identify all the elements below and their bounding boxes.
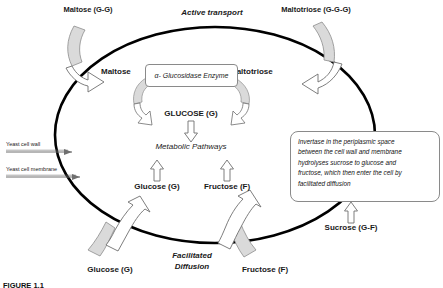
maltose-uptake-arrow (66, 26, 104, 92)
label-glucose-extracellular: Glucose (G) (87, 266, 132, 274)
invertase-info-box: Invertase in the periplasmic space betwe… (290, 131, 440, 202)
cell-membrane-pointer-arrow (6, 175, 80, 177)
glucose-facilitated-diffusion-arrow (88, 196, 150, 256)
label-glucose-intracellular: Glucose (G) (134, 183, 179, 191)
label-facilitated-diffusion-line1: Facilitated (172, 252, 212, 260)
sucrose-up-arrow (345, 202, 358, 223)
figure-caption: FIGURE 1.1 (3, 281, 44, 288)
label-yeast-cell-membrane: Yeast cell membrane (6, 167, 57, 173)
label-active-transport: Active transport (181, 9, 242, 17)
label-alpha-glucosidase-enzyme: α- Glucosidase Enzyme (154, 72, 228, 79)
label-fructose-extracellular: Fructose (F) (242, 266, 288, 274)
alpha-glucosidase-enzyme-box: α- Glucosidase Enzyme (145, 64, 238, 87)
label-maltose-intracellular: Maltose (101, 68, 131, 76)
invertase-info-line-2: between the cell wall and membrane (298, 147, 433, 157)
figure-canvas: Maltose (G-G) Active transport Maltotrio… (0, 0, 443, 288)
label-yeast-cell-wall: Yeast cell wall (6, 142, 40, 148)
label-maltotriose-extracellular: Maltotriose (G-G-G) (281, 6, 351, 14)
fructose-up-arrow (221, 160, 234, 181)
invertase-info-line-5: facilitated diffusion (298, 179, 433, 189)
glucose-up-arrow (151, 160, 164, 181)
maltotriose-uptake-arrow (302, 22, 342, 94)
invertase-info-line-4: fructose, which then enter the cell by (298, 168, 433, 178)
invertase-info-line-3: hydrolyses sucrose to glucose and (298, 158, 433, 168)
glucose-to-metabolism-arrow (185, 121, 198, 142)
fructose-facilitated-diffusion-arrow (218, 190, 261, 257)
label-sucrose-extracellular: Sucrose (G-F) (325, 224, 378, 232)
label-facilitated-diffusion-line2: Diffusion (175, 263, 210, 271)
invertase-info-line-1: Invertase in the periplasmic space (298, 137, 433, 147)
cell-wall-pointer-arrow (6, 150, 72, 152)
label-metabolic-pathways: Metabolic Pathways (155, 143, 226, 151)
label-glucose-pool: GLUCOSE (G) (164, 110, 217, 118)
label-fructose-intracellular: Fructose (F) (204, 183, 250, 191)
label-maltose-extracellular: Maltose (G-G) (63, 6, 112, 14)
